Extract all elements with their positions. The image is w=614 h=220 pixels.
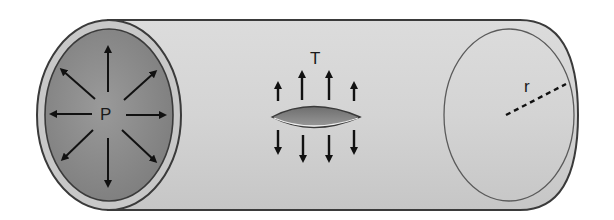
pipe-diagram-graphic bbox=[0, 0, 614, 220]
pressure-label: P bbox=[100, 106, 111, 123]
radius-label: r bbox=[524, 78, 530, 95]
tension-label: T bbox=[310, 50, 320, 67]
pipe-diagram: P T r bbox=[0, 0, 614, 220]
